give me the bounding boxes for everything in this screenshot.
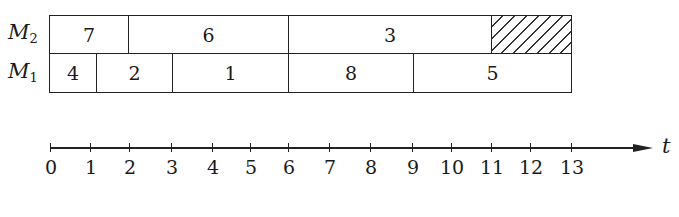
task-label: 8 [345,62,357,84]
task-block-m1-2: 2 [96,53,173,93]
machine-label-text: M [8,59,30,83]
axis-tick-label: 13 [560,158,584,177]
axis-tick [288,143,289,152]
task-block-m2-3: 3 [288,15,492,54]
axis-tick [129,143,130,152]
axis-tick [212,143,213,152]
axis-tick-label: 4 [207,158,219,177]
task-label: 2 [128,62,140,84]
axis-tick-label: 7 [324,158,336,177]
axis-tick-label: 12 [519,158,543,177]
axis-tick [571,143,572,152]
axis-tick [451,143,452,152]
axis-tick [250,143,251,152]
axis-tick [530,143,531,152]
axis-tick [50,143,51,152]
axis-label-t: t [662,136,670,157]
task-label: 4 [67,62,79,84]
idle-block-hatched [491,15,572,54]
task-label: 6 [202,24,214,46]
task-label: 5 [486,62,498,84]
task-block-m1-4: 4 [49,53,97,93]
machine-label-m2: M2 [8,22,38,45]
task-block-m1-1: 1 [172,53,289,93]
task-label: 7 [83,24,95,46]
axis-tick [491,143,492,152]
task-block-m1-8: 8 [288,53,414,93]
gantt-diagram: M2 M1 7 6 3 4 2 1 8 5 t 0 1 [0,0,679,217]
axis-tick-label: 6 [283,158,295,177]
axis-tick-label: 5 [245,158,257,177]
machine-label-text: M [8,20,30,44]
machine-label-subscript: 1 [30,70,38,85]
axis-tick [329,143,330,152]
axis-arrow-icon [633,144,653,152]
axis-tick [412,143,413,152]
axis-tick-label: 3 [166,158,178,177]
task-block-m2-6: 6 [128,15,289,54]
axis-tick-label: 0 [45,158,57,177]
axis-tick [370,143,371,152]
machine-label-subscript: 2 [30,31,38,46]
axis-tick-label: 10 [440,158,464,177]
axis-tick-label: 11 [480,158,504,177]
axis-tick-label: 8 [365,158,377,177]
task-block-m1-5: 5 [413,53,572,93]
axis-tick-label: 2 [124,158,136,177]
axis-tick [171,143,172,152]
axis-tick-label: 9 [407,158,419,177]
axis-tick [90,143,91,152]
time-axis-line [50,147,634,149]
machine-label-m1: M1 [8,61,38,84]
task-label: 3 [384,24,396,46]
axis-tick-label: 1 [85,158,97,177]
task-block-m2-7: 7 [49,15,129,54]
task-label: 1 [224,62,236,84]
